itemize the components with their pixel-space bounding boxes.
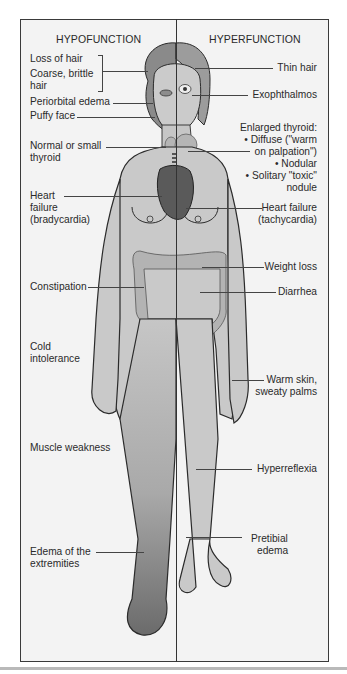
label-heart-failure: failure <box>30 202 58 214</box>
hair-bracket <box>102 55 103 92</box>
label-muscle-weakness: Muscle weakness <box>30 442 110 454</box>
leader-puffy-face <box>77 117 155 118</box>
leader-enlarged-thyroid <box>188 151 250 152</box>
arm-right <box>228 179 248 423</box>
label-bradycardia: (bradycardia) <box>30 214 90 226</box>
arm-left <box>92 179 120 414</box>
label-puffy-face: Puffy face <box>30 110 75 122</box>
label-hyperreflexia: Hyperreflexia <box>257 463 317 475</box>
label-weight-loss: Weight loss <box>265 261 317 273</box>
label-heart-failure-tachy: Heart failure <box>262 202 318 214</box>
label-small-thyroid: Normal or small <box>30 140 101 152</box>
label-loss-of-hair: Loss of hair <box>30 53 83 65</box>
label-coarse-hair-2: hair <box>30 80 47 92</box>
label-diffuse-2: on palpation") <box>254 146 317 158</box>
label-small-thyroid-2: thyroid <box>30 152 61 164</box>
leader-constipation <box>88 287 144 288</box>
label-coarse-hair: Coarse, brittle <box>30 68 93 80</box>
leader-weight-loss <box>202 267 264 268</box>
leader-hyperreflexia <box>196 469 252 470</box>
label-periorbital-edema: Periorbital edema <box>30 96 110 108</box>
leader-heart-hypo <box>64 196 162 197</box>
label-diffuse: • Diffuse ("warm <box>244 134 317 146</box>
leader-periorbital <box>113 103 153 104</box>
center-divider <box>176 19 177 662</box>
label-heart: Heart <box>30 190 55 202</box>
leader-diarrhea <box>200 292 276 293</box>
label-warm-skin: Warm skin, <box>266 374 317 386</box>
label-pretibial: Pretibial <box>251 533 288 545</box>
label-cold: Cold <box>30 341 51 353</box>
label-edema-extremities-2: extremities <box>30 558 79 570</box>
label-cold-intolerance: intolerance <box>30 353 80 365</box>
label-enlarged-thyroid: Enlarged thyroid: <box>240 122 317 134</box>
leader-hair <box>102 71 148 72</box>
label-exophthalmos: Exophthalmos <box>252 89 317 101</box>
label-sweaty-palms: sweaty palms <box>255 386 317 398</box>
eye-puffy <box>160 90 172 96</box>
label-solitary-toxic-2: nodule <box>286 182 317 194</box>
label-constipation: Constipation <box>30 281 87 293</box>
bracket-bottom <box>98 91 102 92</box>
leader-heart-hyper <box>186 208 262 209</box>
label-edema-extremities: Edema of the <box>30 546 91 558</box>
leader-edema-extremities <box>96 552 144 553</box>
label-tachycardia: (tachycardia) <box>258 214 317 226</box>
leader-thin-hair <box>195 68 273 69</box>
leader-warm-skin <box>232 380 264 381</box>
bracket-top <box>98 55 102 56</box>
label-thin-hair: Thin hair <box>277 62 317 74</box>
label-solitary-toxic: • Solitary "toxic" <box>246 170 317 182</box>
label-diarrhea: Diarrhea <box>278 286 317 298</box>
leader-thyroid <box>106 147 166 148</box>
leader-exophthalmos <box>192 95 248 96</box>
label-nodular: • Nodular <box>275 158 317 170</box>
leader-pretibial <box>186 537 242 538</box>
bottom-rule <box>0 667 347 670</box>
label-pretibial-edema: edema <box>257 545 288 557</box>
